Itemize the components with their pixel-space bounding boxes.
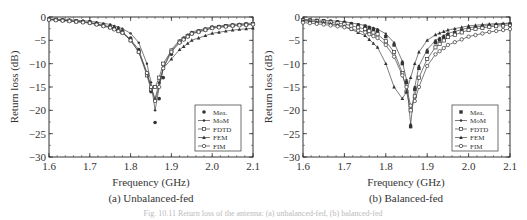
y-tick-label: −10 [29,58,47,70]
x-tick-label: 1.7 [338,160,352,172]
y-tick-label: −25 [283,128,301,140]
x-tick-label: 1.8 [124,160,138,172]
x-tick-label: 2.1 [246,160,260,172]
plot-unbalanced-fed: 1.61.71.81.92.02.10−5−10−15−20−25−30 Mea… [8,11,260,205]
y-tick-label: −25 [29,128,47,140]
y-tick-label: 0 [295,11,301,23]
y-axis-label: Return loss (dB) [8,50,21,123]
plot-balanced-fed: 1.61.71.81.92.02.10−5−10−15−20−25−30 Mea… [262,11,517,205]
y-axis-label: Return loss (dB) [262,50,275,123]
legend-label: FEM [470,134,485,142]
legend-label: FDTD [470,126,488,134]
x-tick-label: 1.8 [379,160,393,172]
y-tick-label: −20 [283,104,301,116]
series-fim [301,21,511,107]
legend: Mea.MoMFDTDFEMFIM [452,105,498,151]
series-fdtd [47,18,254,91]
y-tick-label: −5 [34,34,46,46]
figure-caption: Fig. 10.11 Return loss of the antenna: (… [144,209,383,218]
legend-label: FEM [213,134,228,142]
legend: Mea.MoMFDTDFEMFIM [195,105,241,151]
x-tick-label: 1.9 [165,160,179,172]
y-tick-label: −5 [288,34,300,46]
x-tick-label: 2.0 [462,160,476,172]
series-fdtd [301,19,511,112]
y-tick-label: −15 [283,81,301,93]
y-tick-label: −10 [283,58,301,70]
figure: 1.61.71.81.92.02.10−5−10−15−20−25−30 Mea… [0,0,527,220]
y-tick-label: 0 [41,11,47,23]
legend-label: MoM [213,117,230,125]
x-tick-label: 2.0 [205,160,219,172]
y-tick-label: −20 [29,104,47,116]
x-axis-label: Frequency (GHz) [367,176,445,189]
subfigure-caption: (a) Unbalanced-fed [108,192,194,205]
y-tick-label: −30 [29,151,47,163]
y-tick-label: −30 [283,151,301,163]
subfigure-caption: (b) Balanced-fed [369,192,444,205]
legend-label: FIM [470,143,483,151]
x-tick-label: 1.7 [83,160,97,172]
y-tick-label: −15 [29,81,47,93]
legend-label: Mea. [213,109,227,117]
x-tick-label: 1.9 [420,160,434,172]
legend-label: Mea. [470,109,484,117]
x-axis-label: Frequency (GHz) [112,176,190,189]
x-tick-label: 2.1 [503,160,517,172]
legend-label: FDTD [213,126,231,134]
legend-label: FIM [213,143,226,151]
legend-label: MoM [470,117,487,125]
